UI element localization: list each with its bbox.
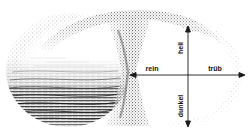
figure-canvas: hell dunkel rein trüb: [0, 0, 252, 138]
axis-label-dunkel: dunkel: [177, 95, 184, 118]
diagram-svg: hell dunkel rein trüb: [0, 0, 252, 138]
axis-label-hell: hell: [177, 42, 184, 54]
axis-label-trueb: trüb: [208, 65, 222, 72]
axis-label-rein: rein: [146, 65, 159, 72]
